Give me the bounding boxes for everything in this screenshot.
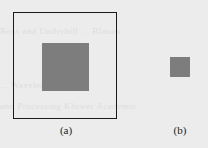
- panel-a-gray-square: [42, 43, 89, 91]
- panel-b-gray-square: [170, 57, 190, 77]
- panel-b-label: (b): [174, 124, 187, 136]
- panel-a-label: (a): [60, 124, 72, 136]
